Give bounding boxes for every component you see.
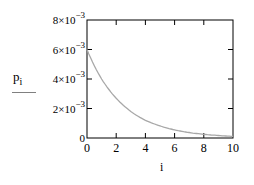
y-tick-label: 4×10−3 [53, 69, 86, 85]
y-tick-label: 8×10−3 [53, 10, 86, 26]
x-tick-label: 8 [201, 141, 207, 155]
chart-plot: 02×10−34×10−36×10−38×10−3 0246810 [0, 0, 254, 185]
plot-frame [87, 20, 233, 138]
legend-line-swatch [12, 92, 36, 93]
axis-ticks [87, 20, 233, 138]
x-axis-label: i [160, 160, 163, 175]
y-tick-label: 2×10−3 [53, 99, 86, 115]
x-tick-label: 10 [227, 141, 239, 155]
x-tick-label: 2 [113, 141, 119, 155]
legend-label: pi [13, 69, 22, 87]
x-tick-label: 0 [84, 141, 90, 155]
x-tick-label: 6 [172, 141, 178, 155]
series-line-p-i [87, 50, 233, 137]
x-tick-label: 4 [142, 141, 148, 155]
x-tick-labels: 0246810 [84, 141, 239, 155]
legend-label-subscript: i [20, 76, 23, 87]
y-tick-label: 6×10−3 [53, 40, 86, 56]
y-tick-labels: 02×10−34×10−36×10−38×10−3 [53, 10, 86, 144]
